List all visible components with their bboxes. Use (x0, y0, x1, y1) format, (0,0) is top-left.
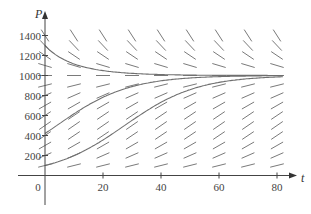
slope-segment (213, 52, 225, 60)
slope-segment (212, 64, 225, 68)
slope-segment (98, 40, 108, 50)
slope-segment (271, 93, 284, 99)
slope-segment (242, 52, 254, 60)
y-tick-label: 600 (25, 110, 42, 122)
slope-segment (154, 84, 168, 87)
x-tick-label: 40 (156, 181, 168, 193)
slope-segment (242, 153, 255, 159)
slope-segment (155, 153, 168, 159)
slope-segment (184, 93, 197, 99)
slope-segment (97, 122, 109, 130)
slope-segment (70, 30, 78, 42)
slope-field (38, 30, 284, 168)
slope-segment (184, 52, 196, 60)
slope-segment (271, 153, 284, 159)
slope-segment (155, 142, 167, 149)
slope-segment (97, 132, 109, 140)
x-tick-label: 80 (272, 181, 284, 193)
slope-segment (126, 132, 138, 140)
slope-segment (241, 164, 255, 167)
slope-segment (68, 122, 80, 130)
x-axis-label: t (301, 171, 305, 185)
slope-segment (125, 164, 139, 167)
slope-segment (125, 64, 138, 68)
slope-segment (155, 93, 168, 99)
slope-segment (183, 64, 196, 68)
slope-segment (241, 84, 255, 87)
slope-segment (183, 164, 197, 167)
slope-segment (242, 122, 254, 130)
slope-segment (185, 40, 195, 50)
y-tick-label: 800 (25, 90, 42, 102)
slope-segment (213, 93, 226, 99)
slope-segment (271, 52, 283, 60)
slope-segment (97, 112, 109, 120)
slope-segment (67, 84, 81, 87)
slope-segment (184, 102, 196, 109)
slope-segment (184, 122, 196, 130)
slope-segment (127, 40, 137, 50)
slope-segment (68, 52, 80, 60)
slope-segment (154, 64, 167, 68)
slope-segment (157, 30, 165, 42)
y-tick-label: 200 (25, 150, 42, 162)
slope-segment (97, 102, 109, 109)
slope-segment (242, 112, 254, 120)
slope-segment (184, 153, 197, 159)
slope-segment (96, 64, 109, 68)
slope-segment (213, 112, 225, 120)
slope-segment (126, 102, 138, 109)
slope-segment (97, 52, 109, 60)
slope-segment (242, 132, 254, 140)
slope-segment (99, 30, 107, 42)
x-tick-label: 20 (98, 181, 110, 193)
slope-segment (242, 142, 254, 149)
slope-segment (212, 164, 226, 167)
slope-segment (96, 164, 110, 167)
x-tick-label: 0 (35, 181, 41, 193)
slope-segment (155, 112, 167, 120)
slope-segment (155, 52, 167, 60)
slope-segment (270, 164, 284, 167)
slope-field-chart: 200400600800100012001400020406080Pt (0, 0, 311, 214)
slope-segment (67, 164, 81, 167)
slope-segment (213, 132, 225, 140)
slope-segment (68, 142, 80, 149)
slope-segment (212, 84, 226, 87)
x-tick-label: 60 (214, 181, 226, 193)
slope-segment (126, 52, 138, 60)
slope-segment (244, 30, 252, 42)
slope-segment (243, 40, 253, 50)
solution-curve (45, 46, 283, 76)
y-tick-label: 1200 (19, 50, 42, 62)
slope-segment (271, 122, 283, 130)
slope-segment (183, 84, 197, 87)
slope-segment (154, 164, 168, 167)
y-axis-label: P (34, 7, 43, 21)
slope-segment (213, 102, 225, 109)
x-axis-arrow-icon (289, 173, 297, 179)
slope-segment (213, 153, 226, 159)
slope-segment (97, 153, 110, 159)
slope-segment (184, 142, 196, 149)
slope-segment (68, 112, 80, 120)
slope-segment (271, 102, 283, 109)
solution-curve (45, 77, 283, 166)
slope-segment (215, 30, 223, 42)
slope-segment (270, 64, 283, 68)
slope-segment (96, 84, 110, 87)
slope-segment (213, 142, 225, 149)
y-tick-label: 1400 (19, 30, 42, 42)
slope-segment (273, 30, 281, 42)
slope-segment (68, 132, 80, 140)
slope-segment (242, 102, 254, 109)
slope-segment (184, 112, 196, 120)
slope-segment (155, 132, 167, 140)
slope-segment (272, 40, 282, 50)
y-tick-label: 1000 (19, 70, 42, 82)
slope-segment (271, 132, 283, 140)
slope-segment (69, 40, 79, 50)
slope-segment (126, 153, 139, 159)
slope-segment (126, 93, 139, 99)
slope-segment (213, 122, 225, 130)
